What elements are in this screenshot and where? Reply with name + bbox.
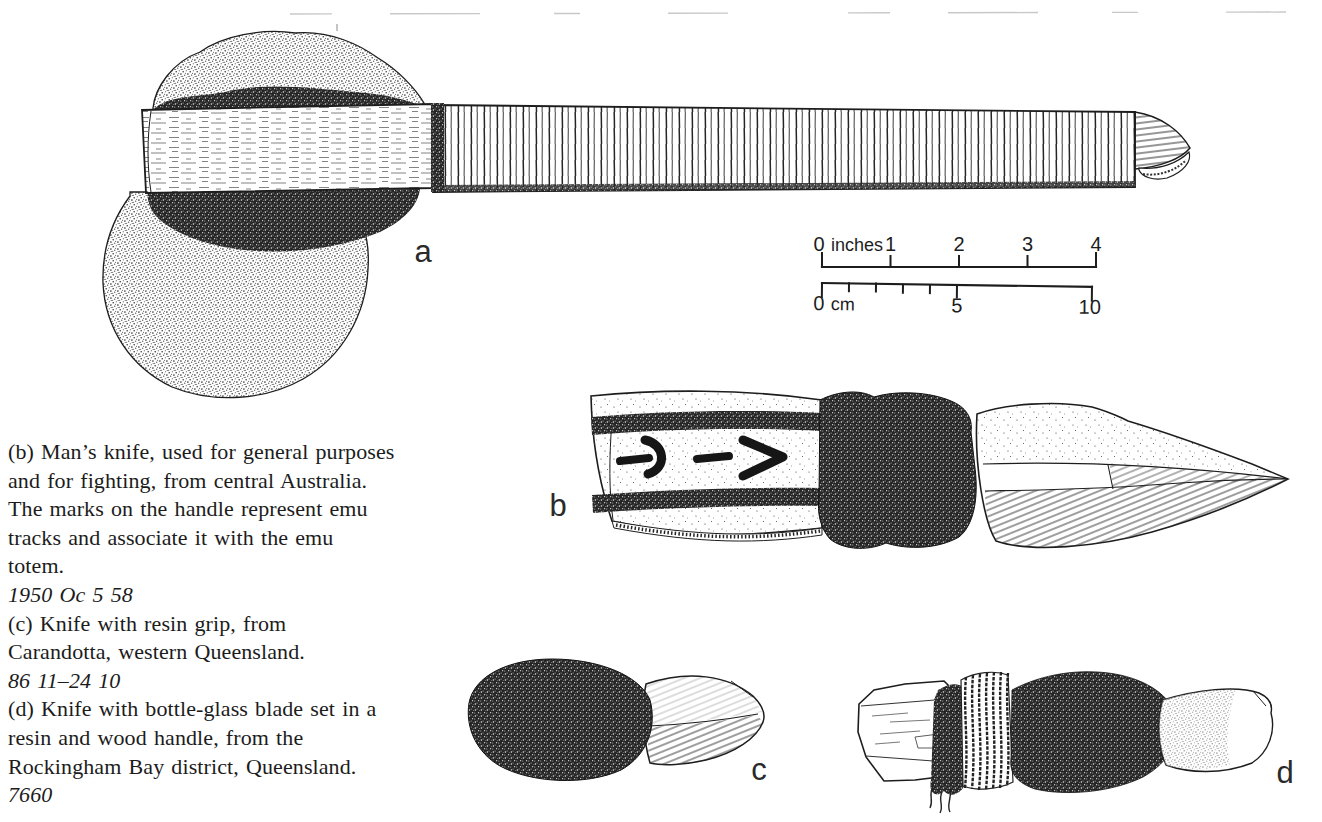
scale-inches: 0 inches 1 2 3 4 <box>813 233 1101 267</box>
cm-end-label: 10 <box>1079 296 1101 318</box>
caption-line: and for fighting, from central Australia… <box>8 467 453 496</box>
knife-b-resin-grip <box>818 392 976 548</box>
inches-ruler-ticks <box>822 253 1096 267</box>
figure-b-label: b <box>549 488 566 523</box>
cord-strand <box>965 677 966 788</box>
caption-line: (d) Knife with bottle-glass blade set in… <box>8 695 453 724</box>
caption-line: The marks on the handle represent emu <box>8 495 453 524</box>
caption-line: (c) Knife with resin grip, from <box>8 610 453 639</box>
caption-block: (b) Man’s knife, used for general purpos… <box>8 438 453 810</box>
cm-unit-label: cm <box>831 294 855 314</box>
scale-bar: 0 inches 1 2 3 4 0 cm 5 10 <box>813 233 1101 318</box>
caption-line: tracks and associate it with the emu <box>8 524 453 553</box>
cm-mid-label: 5 <box>951 294 962 316</box>
inches-tick-2: 2 <box>953 233 964 255</box>
inches-zero-label: 0 <box>813 233 824 255</box>
inches-tick-1: 1 <box>885 233 896 255</box>
emu-track-dash-2 <box>697 456 729 459</box>
scale-cm: 0 cm 5 10 <box>813 283 1101 318</box>
figure-d-bottle-glass-knife: d <box>858 672 1294 813</box>
figure-c-label: c <box>751 752 767 787</box>
figure-a-label: a <box>414 234 432 269</box>
cord-strand <box>1007 673 1008 786</box>
emu-track-dash-1 <box>620 458 649 461</box>
figure-d-label: d <box>1276 755 1293 790</box>
book-plate-page: a 0 inches 1 2 3 4 0 cm 5 10 <box>0 0 1322 822</box>
caption-accession-c: 86 11–24 10 <box>8 667 453 696</box>
figure-b-mans-knife: b <box>549 391 1288 548</box>
inches-unit-label: inches <box>831 235 883 255</box>
knife-d-blade-shading <box>1159 690 1235 769</box>
figure-c-resin-grip-knife: c <box>468 659 767 787</box>
caption-line: totem. <box>8 552 453 581</box>
caption-accession-b: 1950 Oc 5 58 <box>8 581 453 610</box>
inches-tick-4: 4 <box>1090 233 1101 255</box>
figure-a-hafted-axe: a <box>103 32 1190 398</box>
scan-artifact-line <box>290 12 1310 14</box>
axe-bound-shaft <box>433 105 1135 192</box>
caption-line: resin and wood handle, from the <box>8 724 453 753</box>
caption-line: Rockingham Bay district, Queensland. <box>8 753 453 782</box>
caption-line: (b) Man’s knife, used for general purpos… <box>8 438 453 467</box>
knife-c-resin-grip <box>468 659 652 781</box>
inches-tick-3: 3 <box>1022 233 1033 255</box>
knife-d-resin-body <box>1011 672 1177 793</box>
caption-line: Carandotta, western Queensland. <box>8 638 453 667</box>
axe-wooden-strip <box>142 104 433 193</box>
axe-wrap-seam <box>431 103 444 192</box>
cm-zero-label: 0 <box>813 292 824 314</box>
caption-accession-d: 7660 <box>8 781 453 810</box>
